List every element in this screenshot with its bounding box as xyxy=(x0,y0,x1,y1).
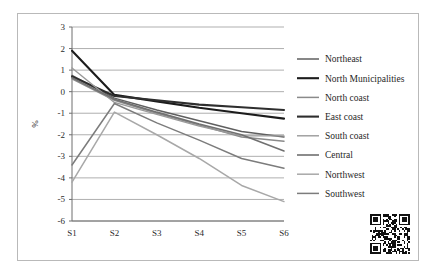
y-axis-title: % xyxy=(30,120,40,128)
x-tick-label: S1 xyxy=(67,228,77,238)
x-tick-label: S5 xyxy=(237,228,247,238)
chart-legend: NortheastNorth MunicipalitiesNorth coast… xyxy=(297,54,405,198)
chart-figure: 3210-1-2-3-4-5-6 S1S2S3S4S5S6 % Northeas… xyxy=(0,0,436,275)
y-tick-label: 1 xyxy=(61,65,66,75)
x-tick-label: S4 xyxy=(194,228,204,238)
y-tick-label: 3 xyxy=(61,22,66,32)
legend-label: Northwest xyxy=(325,170,365,180)
legend-label: South coast xyxy=(325,131,369,141)
legend-label: Southwest xyxy=(325,189,365,199)
legend-label: Northeast xyxy=(325,54,362,64)
y-tick-label: -2 xyxy=(58,130,66,140)
gridlines xyxy=(72,27,284,221)
y-axis-label-text: % xyxy=(30,120,40,128)
legend-label: Central xyxy=(325,150,353,160)
x-axis-tick-labels: S1S2S3S4S5S6 xyxy=(67,228,289,238)
series-line xyxy=(72,112,284,201)
y-tick-label: -3 xyxy=(58,151,66,161)
x-tick-label: S6 xyxy=(279,228,289,238)
y-tick-label: 2 xyxy=(61,44,66,54)
legend-label: North coast xyxy=(325,93,369,103)
y-axis-tick-labels: 3210-1-2-3-4-5-6 xyxy=(58,22,66,226)
y-tick-label: -1 xyxy=(58,108,66,118)
qr-code-watermark xyxy=(368,212,412,256)
data-series-lines xyxy=(72,51,284,202)
axes xyxy=(69,27,284,221)
y-tick-label: -6 xyxy=(58,216,66,226)
legend-label: East coast xyxy=(325,112,364,122)
y-tick-label: -5 xyxy=(58,194,66,204)
y-tick-label: 0 xyxy=(61,87,66,97)
x-tick-label: S2 xyxy=(110,228,120,238)
x-tick-label: S3 xyxy=(152,228,162,238)
y-tick-label: -4 xyxy=(58,173,66,183)
legend-label: North Municipalities xyxy=(325,74,405,84)
qr-code-image xyxy=(370,214,410,254)
